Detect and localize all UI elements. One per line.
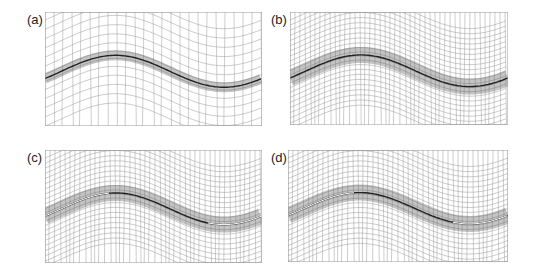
panel-label-a: (a) — [27, 12, 43, 27]
mesh-panel-a — [45, 12, 262, 126]
mesh-panel-d — [288, 150, 508, 262]
panel-label-d: (d) — [271, 150, 287, 165]
panel-label-b: (b) — [271, 12, 287, 27]
mesh-panel-b — [290, 12, 508, 125]
panel-label-c: (c) — [27, 150, 42, 165]
mesh-panel-c — [45, 150, 262, 263]
